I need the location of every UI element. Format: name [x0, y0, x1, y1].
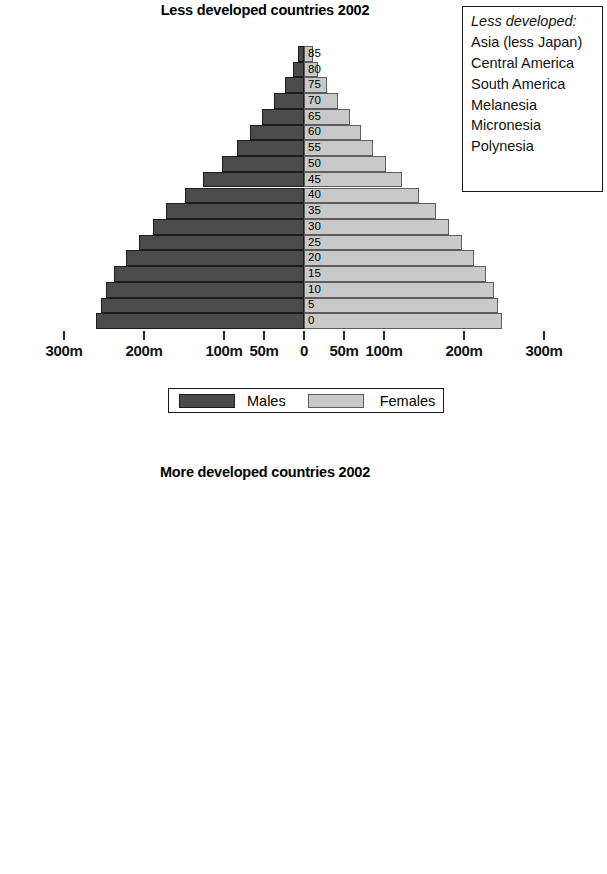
pyramid-row: 75 [0, 77, 607, 93]
axis-tick [223, 331, 225, 340]
axis-tick-label: 100m [365, 342, 402, 359]
pyramid-row: 15 [0, 266, 607, 282]
axis-tick [143, 331, 145, 340]
axis-tick [263, 331, 265, 340]
pyramid-row: 20 [0, 250, 607, 266]
male-bar [185, 188, 304, 204]
female-bar [304, 77, 327, 93]
females-legend-label: Females [380, 393, 436, 409]
pyramid-row: 85 [0, 46, 607, 62]
male-bar [285, 77, 304, 93]
pyramid-row: 60 [0, 125, 607, 141]
female-bar [304, 125, 361, 141]
male-bar [96, 313, 304, 329]
pyramid-row: 40 [0, 188, 607, 204]
female-bar [304, 140, 373, 156]
females-swatch [308, 394, 364, 408]
axis-tick-label: 200m [445, 342, 482, 359]
female-bar [304, 46, 313, 62]
axis-tick-label: 100m [205, 342, 242, 359]
female-bar [304, 282, 494, 298]
female-bar [304, 313, 502, 329]
pyramid-row: 30 [0, 219, 607, 235]
pyramid-row: 10 [0, 282, 607, 298]
axis-tick [383, 331, 385, 340]
region-legend-heading: Less developed: [471, 11, 595, 32]
female-bar [304, 109, 350, 125]
males-swatch [179, 394, 235, 408]
pyramid-row: 50 [0, 156, 607, 172]
female-bar [304, 266, 486, 282]
axis-tick [343, 331, 345, 340]
female-bar [304, 298, 498, 314]
male-bar [222, 156, 304, 172]
axis-tick-label: 200m [125, 342, 162, 359]
x-axis-less-developed: 300m200m100m50m050m100m200m300m [0, 331, 607, 367]
female-bar [304, 250, 474, 266]
axis-tick-label: 300m [525, 342, 562, 359]
axis-tick [543, 331, 545, 340]
axis-tick [63, 331, 65, 340]
pyramid-row: 70 [0, 93, 607, 109]
sex-legend-less-developed: Males Females [168, 388, 444, 413]
male-bar [153, 219, 304, 235]
female-bar [304, 188, 419, 204]
female-bar [304, 62, 318, 78]
male-bar [114, 266, 304, 282]
male-bar [274, 93, 304, 109]
pyramid-row: 55 [0, 140, 607, 156]
axis-tick-label: 50m [329, 342, 358, 359]
female-bar [304, 172, 402, 188]
male-bar [237, 140, 304, 156]
axis-tick [303, 331, 305, 340]
pyramid-row: 0 [0, 313, 607, 329]
pyramid-row: 65 [0, 109, 607, 125]
male-bar [139, 235, 304, 251]
males-legend-label: Males [247, 393, 286, 409]
chart-title-less-developed: Less developed countries 2002 [90, 2, 440, 18]
pyramid-row: 35 [0, 203, 607, 219]
male-bar [293, 62, 304, 78]
chart-less-developed: Less developed countries 2002 Less devel… [0, 0, 607, 420]
female-bar [304, 156, 386, 172]
pyramid-row: 80 [0, 62, 607, 78]
axis-tick-label: 50m [249, 342, 278, 359]
pyramid-row: 25 [0, 235, 607, 251]
axis-tick [463, 331, 465, 340]
male-bar [126, 250, 304, 266]
pyramid-plot-less-developed: 8580757065605550454035302520151050 [0, 46, 607, 329]
chart-title-more-developed: More developed countries 2002 [90, 464, 440, 480]
male-bar [166, 203, 304, 219]
pyramid-row: 5 [0, 298, 607, 314]
pyramid-row: 45 [0, 172, 607, 188]
male-bar [262, 109, 304, 125]
female-bar [304, 219, 449, 235]
axis-tick-label: 0 [300, 342, 308, 359]
male-bar [106, 282, 304, 298]
female-bar [304, 93, 338, 109]
chart-more-developed: More developed countries 2002 More devel… [0, 460, 607, 874]
female-bar [304, 203, 436, 219]
male-bar [203, 172, 304, 188]
female-bar [304, 235, 462, 251]
male-bar [101, 298, 304, 314]
male-bar [250, 125, 304, 141]
axis-tick-label: 300m [45, 342, 82, 359]
